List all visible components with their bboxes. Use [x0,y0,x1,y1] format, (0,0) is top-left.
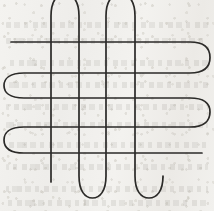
figure-canvas [0,0,214,211]
serpentine-curves-drawing [0,0,214,211]
vertical-serpentine-path [51,0,163,198]
horizontal-serpentine-path [4,42,210,153]
